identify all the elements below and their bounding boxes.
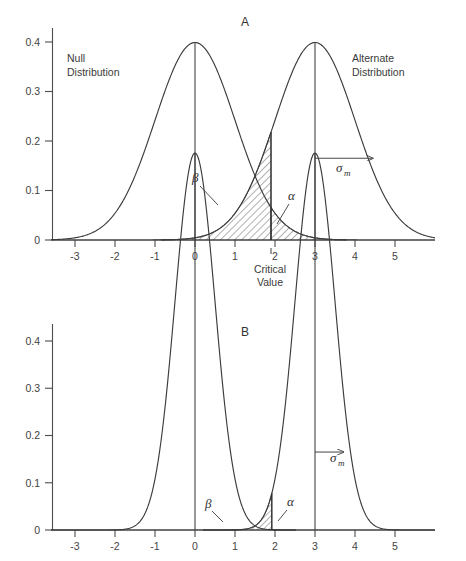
y-tick-label-b-0: 0.4 bbox=[25, 335, 40, 347]
x-tick-label-b-8: 5 bbox=[392, 540, 398, 552]
y-tick-label-a-1: 0.3 bbox=[25, 85, 40, 97]
statistical-power-figure: A 0.40.30.20.10 -3-2-1012345 Null Distri… bbox=[0, 0, 466, 561]
x-tick-label-a-7: 4 bbox=[352, 250, 358, 262]
alternate-distribution-label-line2: Distribution bbox=[352, 66, 405, 78]
panel-a-title: A bbox=[241, 15, 249, 29]
y-tick-label-a-4: 0 bbox=[34, 234, 40, 246]
y-tick-label-b-4: 0 bbox=[34, 524, 40, 536]
x-tick-label-b-5: 2 bbox=[272, 540, 278, 552]
beta-label-panel-b: β bbox=[204, 496, 212, 511]
null-distribution-label-line1: Null bbox=[67, 52, 85, 64]
x-tick-label-b-2: -1 bbox=[150, 540, 159, 552]
sigma-label-panel-a: σ bbox=[336, 160, 343, 175]
y-tick-label-a-0: 0.4 bbox=[25, 36, 40, 48]
y-tick-label-b-2: 0.2 bbox=[25, 429, 40, 441]
y-tick-label-b-1: 0.3 bbox=[25, 382, 40, 394]
x-tick-label-a-1: -2 bbox=[110, 250, 119, 262]
x-tick-label-a-2: -1 bbox=[150, 250, 159, 262]
y-tick-label-a-3: 0.1 bbox=[25, 184, 40, 196]
x-tick-label-b-1: -2 bbox=[110, 540, 119, 552]
alpha-label-panel-b: α bbox=[287, 494, 295, 509]
sigma-label-panel-b: σ bbox=[330, 450, 337, 465]
x-tick-label-b-0: -3 bbox=[70, 540, 79, 552]
y-tick-label-b-3: 0.1 bbox=[25, 477, 40, 489]
panel-b-title: B bbox=[241, 325, 249, 339]
sigma-subscript-panel-b: m bbox=[338, 458, 345, 468]
sigma-subscript-panel-a: m bbox=[344, 168, 351, 178]
null-distribution-label-line2: Distribution bbox=[67, 66, 120, 78]
y-tick-label-a-2: 0.2 bbox=[25, 135, 40, 147]
x-tick-label-b-3: 0 bbox=[192, 540, 198, 552]
x-tick-label-b-6: 3 bbox=[312, 540, 318, 552]
x-tick-label-a-4: 1 bbox=[232, 250, 238, 262]
x-tick-label-b-4: 1 bbox=[232, 540, 238, 552]
x-tick-label-a-8: 5 bbox=[392, 250, 398, 262]
critical-value-label-line2: Value bbox=[257, 276, 283, 288]
x-tick-label-a-5: 2 bbox=[272, 250, 278, 262]
alternate-distribution-label-line1: Alternate bbox=[352, 52, 394, 64]
x-tick-label-b-7: 4 bbox=[352, 540, 358, 552]
x-tick-label-a-0: -3 bbox=[70, 250, 79, 262]
figure-background bbox=[0, 0, 466, 561]
critical-value-label-line1: Critical bbox=[254, 263, 286, 275]
alpha-label-panel-a: α bbox=[288, 188, 296, 203]
